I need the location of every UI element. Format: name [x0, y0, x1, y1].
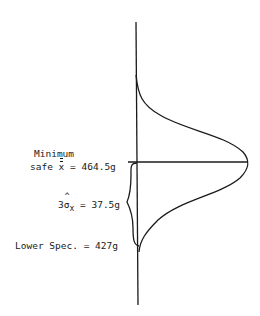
normal-curve — [136, 75, 248, 252]
minimum-safe-mean-value: = 464.5g — [64, 161, 115, 172]
lower-spec-label: Lower Spec. = 427g — [15, 241, 118, 251]
x-double-bar-symbol: x — [59, 162, 65, 172]
three-sigma-label: 3σx = 37.5g — [58, 200, 120, 213]
minimum-label-prefix: safe — [30, 161, 59, 172]
three-sigma-value: = 37.5g — [74, 199, 120, 210]
minimum-label-line1: Minimum — [34, 149, 74, 159]
minimum-safe-mean-label: safe x = 464.5g — [30, 162, 116, 172]
sigma-hat-symbol: σ — [64, 200, 70, 210]
